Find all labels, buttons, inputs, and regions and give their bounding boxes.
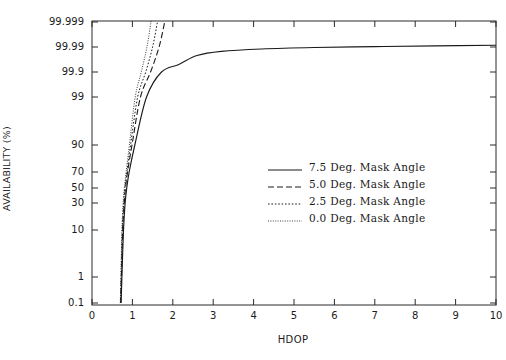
x-axis-title: HDOP — [278, 334, 309, 345]
legend-item-label: 7.5 Deg. Mask Angle — [309, 161, 426, 173]
legend-item: 7.5 Deg. Mask Angle — [268, 158, 458, 175]
legend-line-sample — [268, 195, 302, 207]
x-tick-label: 4 — [250, 311, 256, 321]
chart-figure: 0.1110305070909999.999.9999.999 01234567… — [0, 0, 506, 360]
y-tick-label: 99.99 — [0, 42, 84, 52]
legend-item: 0.0 Deg. Mask Angle — [268, 209, 458, 226]
legend-line-sample — [268, 212, 302, 224]
x-tick-label: 5 — [291, 311, 297, 321]
y-tick-label: 99 — [0, 92, 84, 102]
legend-line-sample — [268, 178, 302, 190]
y-tick-label: 50 — [0, 183, 84, 193]
x-tick-label: 10 — [490, 311, 503, 321]
x-tick-label: 2 — [170, 311, 176, 321]
x-tick-label: 6 — [331, 311, 337, 321]
x-tick-label: 7 — [372, 311, 378, 321]
legend-item: 2.5 Deg. Mask Angle — [268, 192, 458, 209]
chart-legend: 7.5 Deg. Mask Angle5.0 Deg. Mask Angle2.… — [268, 158, 458, 226]
x-tick-label: 1 — [129, 311, 135, 321]
legend-line-sample — [268, 161, 302, 173]
y-tick-label: 90 — [0, 140, 84, 150]
x-tick-label: 0 — [89, 311, 95, 321]
y-tick-label: 0.1 — [0, 298, 84, 308]
x-tick-label: 8 — [412, 311, 418, 321]
x-tick-label: 3 — [210, 311, 216, 321]
y-tick-label: 1 — [0, 272, 84, 282]
y-tick-label: 99.9 — [0, 67, 84, 77]
legend-item-label: 2.5 Deg. Mask Angle — [309, 195, 426, 207]
y-axis-title: AVAILABILITY (%) — [1, 126, 12, 211]
legend-item: 5.0 Deg. Mask Angle — [268, 175, 458, 192]
y-tick-label: 99.999 — [0, 17, 84, 27]
y-tick-label: 70 — [0, 167, 84, 177]
x-tick-label: 9 — [452, 311, 458, 321]
y-tick-label: 10 — [0, 225, 84, 235]
y-tick-label: 30 — [0, 198, 84, 208]
legend-item-label: 0.0 Deg. Mask Angle — [309, 212, 426, 224]
legend-item-label: 5.0 Deg. Mask Angle — [309, 178, 426, 190]
